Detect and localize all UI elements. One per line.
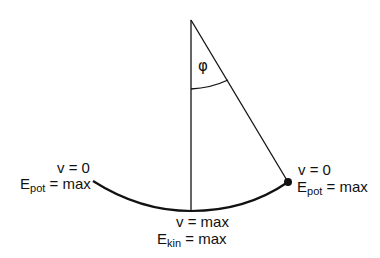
angle-phi-label: φ <box>198 57 208 75</box>
bottom-velocity-label: v = max <box>176 214 229 230</box>
right-energy-label: Epot = max <box>297 179 368 195</box>
right-velocity-label: v = 0 <box>298 162 331 178</box>
pendulum-bob <box>284 178 292 186</box>
left-velocity-label: v = 0 <box>57 160 90 176</box>
left-energy-label: Epot = max <box>20 176 91 192</box>
angle-arc <box>191 80 228 89</box>
pendulum-string <box>191 20 288 182</box>
bottom-energy-label: Ekin = max <box>157 231 227 247</box>
